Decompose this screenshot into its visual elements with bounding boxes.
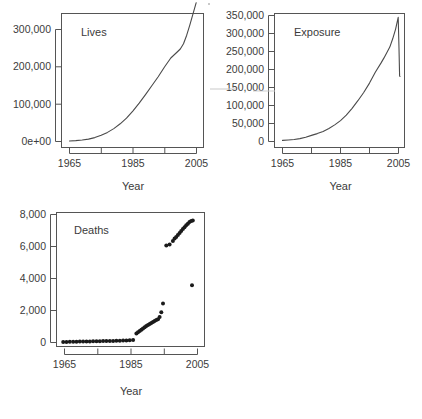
speck-icon [208,3,210,5]
multi-panel-figure: 0e+00 100,000 200,000 300,000 1965 1985 … [0,0,422,419]
speck-icon [253,90,275,92]
scan-artifacts [0,0,422,419]
speck-icon [210,88,236,90]
